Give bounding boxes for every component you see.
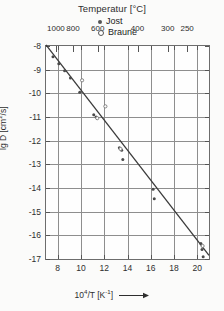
x-axis-title: 104/T [K-1] (0, 288, 224, 300)
marker-filled-circle-icon (98, 20, 102, 24)
y-tick-label: -14 (19, 183, 41, 193)
temperature-tick-label: 800 (66, 24, 79, 33)
legend-label: Braune (108, 27, 137, 38)
legend-item-braune: Braune (98, 27, 137, 38)
data-point (57, 62, 60, 65)
y-tick-label: -16 (19, 230, 41, 240)
x-tick-label: 12 (99, 263, 108, 273)
axis-tick (46, 259, 50, 260)
data-point (202, 255, 205, 258)
y-axis-title: lg D [cm2/s] (0, 106, 8, 150)
data-point (104, 105, 107, 108)
data-point (96, 117, 99, 120)
data-point (80, 79, 83, 82)
y-tick-label: -11 (19, 112, 41, 122)
plot-area (45, 45, 210, 260)
x-tick-label: 16 (146, 263, 155, 273)
legend-item-jost: Jost (98, 16, 137, 27)
y-tick-label: -9 (19, 65, 41, 75)
data-point (201, 244, 204, 247)
data-point (69, 76, 72, 79)
fit-line (46, 45, 209, 256)
legend: Jost Braune (98, 16, 137, 38)
x-tick-label: 20 (193, 263, 202, 273)
data-point (63, 69, 66, 72)
y-tick-label: -17 (19, 254, 41, 264)
arrhenius-diffusion-chart: Temperatur [°C] 1000800600400300250 lg D… (0, 0, 224, 311)
x-tick-label: 8 (55, 263, 60, 273)
axis-tick (205, 259, 209, 260)
y-tick-label: -15 (19, 207, 41, 217)
y-tick-label: -10 (19, 88, 41, 98)
chart-title: Temperatur [°C] (0, 3, 224, 14)
data-layer (46, 46, 209, 259)
data-point (152, 188, 155, 191)
temperature-tick-label: 250 (180, 24, 193, 33)
y-tick-label: -13 (19, 159, 41, 169)
y-tick-label: -8 (19, 41, 41, 51)
data-point (78, 91, 81, 94)
x-tick-label: 14 (123, 263, 132, 273)
data-point (51, 55, 54, 58)
data-point (121, 158, 124, 161)
y-tick-label: -12 (19, 136, 41, 146)
data-point (92, 113, 95, 116)
marker-open-circle-icon (98, 30, 104, 36)
data-point (119, 147, 122, 150)
temperature-tick-label: 300 (161, 24, 174, 33)
temperature-tick-label: 1000 (47, 24, 65, 33)
data-point (153, 197, 156, 200)
x-tick-label: 18 (169, 263, 178, 273)
x-tick-label: 10 (76, 263, 85, 273)
data-point (201, 248, 204, 251)
legend-label: Jost (106, 16, 123, 27)
